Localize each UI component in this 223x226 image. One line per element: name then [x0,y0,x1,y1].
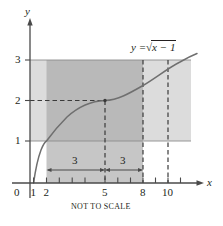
shaded-region-lower-band [47,141,144,183]
y-axis-ticks [25,60,30,141]
y-axis-arrowhead [27,18,32,26]
figure-container: y x 3 2 1 0 1 2 5 8 10 3 3 y =√x − 1 NOT… [0,0,223,226]
x-axis-arrowhead [197,180,205,185]
marked-point-5-2 [103,99,106,102]
plot-svg [0,0,223,226]
